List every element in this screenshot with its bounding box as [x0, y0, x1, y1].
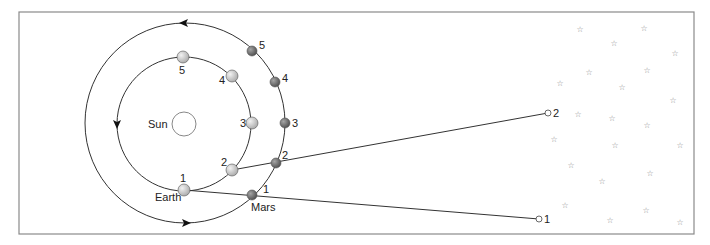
- earth-position-5: [177, 51, 189, 63]
- star-icon: ☆: [643, 121, 650, 130]
- star-icon: ☆: [576, 25, 583, 34]
- star-icon: ☆: [550, 135, 557, 144]
- star-icon: ☆: [574, 110, 581, 119]
- earth-position-3: [246, 117, 258, 129]
- star-icon: ☆: [643, 66, 650, 75]
- star-icon: ☆: [585, 68, 592, 77]
- mars-position-4: [270, 77, 280, 87]
- star-icon: ☆: [646, 169, 653, 178]
- star-icon: ☆: [598, 177, 605, 186]
- earth-position-label: 4: [219, 74, 225, 86]
- apparent-position-label: 2: [553, 107, 559, 119]
- star-icon: ☆: [606, 216, 613, 225]
- earth-position-2: [226, 164, 238, 176]
- apparent-position-label: 1: [544, 213, 550, 225]
- earth-position-label: 1: [180, 172, 186, 184]
- sightline-1: [184, 190, 539, 219]
- star-icon: ☆: [556, 79, 563, 88]
- mars-position-label: 3: [292, 117, 298, 129]
- star-icon: ☆: [640, 24, 647, 33]
- mars-position-label: 4: [282, 72, 288, 84]
- background-stars: ☆☆☆☆☆☆☆☆☆☆☆☆☆☆☆☆☆☆☆☆☆☆: [550, 24, 683, 227]
- mars-position-label: 2: [282, 149, 288, 161]
- star-icon: ☆: [676, 141, 683, 150]
- earth-position-label: 5: [179, 64, 185, 76]
- star-icon: ☆: [611, 141, 618, 150]
- mars-label: Mars: [251, 201, 276, 213]
- mars-position-label: 1: [263, 183, 269, 195]
- sun-icon: [172, 112, 196, 136]
- earth-position-4: [226, 70, 238, 82]
- diagram-frame: [19, 12, 694, 234]
- star-icon: ☆: [567, 161, 574, 170]
- mars-position-label: 5: [259, 39, 265, 51]
- star-icon: ☆: [669, 96, 676, 105]
- apparent-position-marker: [536, 216, 542, 222]
- star-icon: ☆: [671, 49, 678, 58]
- earth-label: Earth: [155, 191, 181, 203]
- mars-position-1: [247, 190, 257, 200]
- star-icon: ☆: [676, 218, 683, 227]
- star-icon: ☆: [642, 206, 649, 215]
- mars-position-3: [280, 118, 290, 128]
- star-icon: ☆: [561, 201, 568, 210]
- earth-position-label: 2: [221, 156, 227, 168]
- retrograde-motion-diagram: 12 Sun 12345 12345 Earth Mars ☆☆☆☆☆☆☆☆☆☆…: [0, 0, 710, 245]
- star-icon: ☆: [608, 114, 615, 123]
- mars-position-5: [247, 46, 257, 56]
- earth-position-label: 3: [240, 117, 246, 129]
- star-icon: ☆: [618, 83, 625, 92]
- apparent-position-marker: [545, 110, 551, 116]
- star-icon: ☆: [610, 39, 617, 48]
- mars-position-2: [271, 158, 281, 168]
- sun-label: Sun: [148, 118, 168, 130]
